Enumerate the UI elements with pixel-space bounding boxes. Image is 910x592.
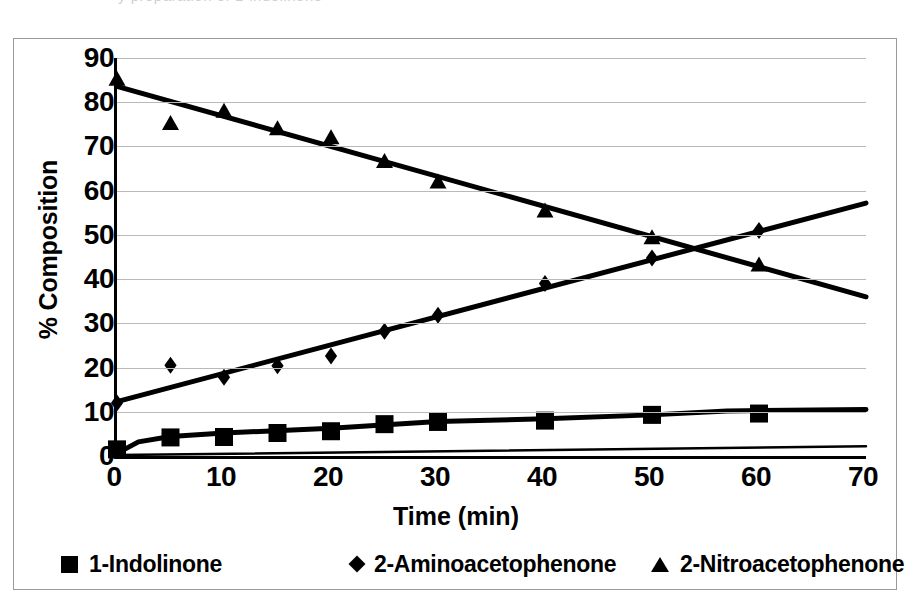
chart-legend: 1-Indolinone2-Aminoacetophenone2-Nitroac…	[14, 544, 898, 590]
data-point-triangle	[323, 129, 340, 144]
data-point-square	[750, 405, 768, 423]
y-tick-label: 40	[84, 265, 114, 293]
x-tick-label: 30	[420, 463, 450, 491]
legend-item-label: 2-Aminoacetophenone	[374, 551, 616, 578]
gridline	[117, 102, 866, 103]
data-point-diamond	[432, 307, 444, 324]
legend-diamond-icon	[349, 556, 366, 573]
gridline	[117, 323, 866, 324]
legend-item-2-aminoacetophenone[interactable]: 2-Aminoacetophenone	[351, 544, 616, 584]
data-point-square	[162, 428, 180, 446]
gridline	[117, 279, 866, 280]
trendline-baseline	[117, 446, 866, 455]
plot-area	[114, 58, 866, 459]
y-tick-label: 10	[84, 398, 114, 426]
legend-item-1-indolinone[interactable]: 1-Indolinone	[61, 544, 222, 584]
figure-frame: % Composition 0102030405060708090 010203…	[13, 38, 897, 590]
data-point-triangle	[216, 103, 233, 118]
gridline	[117, 146, 866, 147]
legend-item-2-nitroacetophenone[interactable]: 2-Nitroacetophenone	[651, 544, 904, 584]
y-tick-label: 50	[84, 221, 114, 249]
x-tick-label: 60	[741, 463, 771, 491]
legend-triangle-icon	[651, 557, 669, 572]
data-point-diamond	[646, 249, 658, 266]
chart-plot-wrapper: % Composition 0102030405060708090 010203…	[14, 39, 898, 519]
data-point-square	[322, 422, 340, 440]
x-tick-label: 40	[527, 463, 557, 491]
x-tick-label: 20	[313, 463, 343, 491]
gridline	[117, 368, 866, 369]
data-point-square	[108, 440, 126, 458]
y-tick-label: 30	[84, 309, 114, 337]
x-tick-label: 10	[206, 463, 236, 491]
data-point-diamond	[164, 357, 176, 374]
trendline-2-aminoacetophenone	[117, 203, 866, 402]
top-crop-artifact-text: y preparation of 1-indolinone	[118, 0, 323, 4]
y-tick-label: 20	[84, 354, 114, 382]
gridline	[117, 412, 866, 413]
legend-item-label: 2-Nitroacetophenone	[680, 551, 904, 578]
y-tick-label: 60	[84, 177, 114, 205]
data-point-square	[643, 406, 661, 424]
x-axis-tick-labels: 010203040506070	[114, 463, 874, 499]
y-axis-tick-labels: 0102030405060708090	[48, 39, 114, 519]
top-crop-artifact: y preparation of 1-indolinone	[0, 0, 910, 14]
y-tick-label: 90	[84, 44, 114, 72]
legend-item-label: 1-Indolinone	[89, 551, 222, 578]
x-tick-label: 50	[634, 463, 664, 491]
legend-square-icon	[61, 556, 78, 573]
data-point-square	[215, 428, 233, 446]
data-point-square	[536, 412, 554, 430]
gridline	[117, 191, 866, 192]
chart-series-svg	[117, 58, 866, 456]
y-tick-label: 80	[84, 88, 114, 116]
data-point-diamond	[325, 348, 337, 365]
data-point-square	[376, 415, 394, 433]
data-point-triangle	[162, 115, 179, 130]
data-point-diamond	[378, 323, 390, 340]
y-tick-label: 70	[84, 132, 114, 160]
gridline	[117, 58, 866, 59]
data-point-square	[429, 413, 447, 431]
data-point-diamond	[753, 222, 765, 239]
x-tick-label: 0	[106, 463, 121, 491]
x-tick-label: 70	[848, 463, 878, 491]
x-axis-title: Time (min)	[14, 502, 898, 531]
data-point-square	[269, 424, 287, 442]
gridline	[117, 235, 866, 236]
